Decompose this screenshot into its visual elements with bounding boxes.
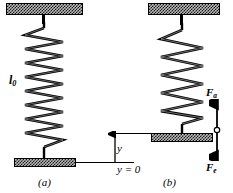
origin-label: y = 0 — [117, 164, 140, 175]
mass-plate-b — [151, 133, 213, 142]
force-up-label: Fa — [206, 87, 217, 100]
force-up-subscript: a — [213, 91, 217, 100]
force-down-subscript: e — [213, 166, 216, 175]
mass-plate-a — [14, 158, 76, 167]
displacement-label: y — [117, 143, 122, 154]
natural-length-label: l0 — [9, 74, 16, 88]
natural-length-subscript: 0 — [12, 79, 16, 88]
caption-a: (a) — [38, 177, 51, 188]
spring-force-figure: l0 (a) (b) — [0, 0, 233, 193]
force-double-arrow — [209, 99, 225, 161]
force-down-label: Fe — [206, 162, 217, 175]
spring-stretched — [155, 23, 211, 135]
caption-b: (b) — [163, 177, 176, 188]
ceiling-hatch-b — [148, 3, 220, 15]
ceiling-hatch-a — [6, 3, 83, 15]
spring-relaxed — [20, 22, 70, 160]
